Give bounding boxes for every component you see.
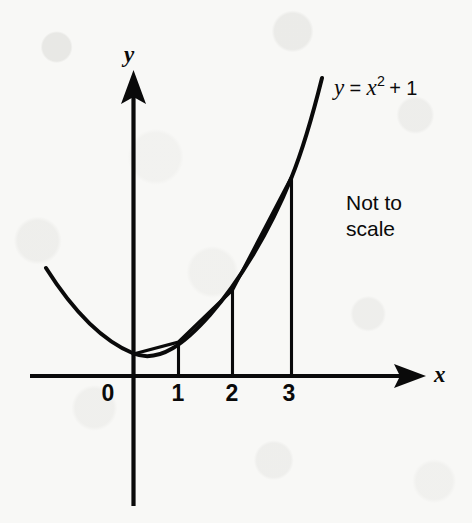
equation-plus: + — [389, 77, 401, 99]
chord-polyline — [134, 177, 292, 354]
tick-label-0: 0 — [93, 382, 123, 405]
tick-label-3: 3 — [274, 382, 304, 405]
figure-canvas: y x y=x2+1 Not to scale 0 1 2 3 — [0, 0, 472, 523]
parabola-curve — [46, 78, 322, 356]
equation-label: y=x2+1 — [334, 76, 418, 99]
x-axis-label: x — [434, 363, 446, 386]
equation-base: x — [367, 75, 378, 100]
equation-exponent: 2 — [377, 73, 385, 89]
not-to-scale-note: Not to scale — [346, 190, 402, 242]
axis-group — [30, 70, 426, 506]
tick-label-2: 2 — [217, 382, 247, 405]
equation-constant: 1 — [406, 77, 417, 99]
tick-label-1: 1 — [163, 382, 193, 405]
equation-equals: = — [350, 77, 362, 99]
note-line-2: scale — [346, 216, 402, 242]
note-line-1: Not to — [346, 190, 402, 216]
parabola-curve-group — [46, 78, 322, 356]
y-axis-label: y — [124, 43, 134, 66]
trapezium-chords — [134, 177, 292, 354]
equation-lhs: y — [334, 75, 345, 100]
